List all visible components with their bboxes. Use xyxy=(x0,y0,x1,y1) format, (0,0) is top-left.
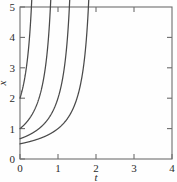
x-tick-label-3: 3 xyxy=(131,162,137,174)
y-tick-label-1: 1 xyxy=(10,123,16,135)
y-tick-label-0: 0 xyxy=(10,153,16,165)
y-tick-label-3: 3 xyxy=(10,62,16,74)
plot-canvas: 0 1 2 3 4 0 1 2 3 4 5 x t xyxy=(0,0,177,182)
y-tick-labels: 0 1 2 3 4 5 xyxy=(10,1,16,165)
y-tick-label-5: 5 xyxy=(10,1,16,13)
x-tick-label-4: 4 xyxy=(169,162,175,174)
y-tick-label-4: 4 xyxy=(10,31,16,43)
figure-container: 0 1 2 3 4 0 1 2 3 4 5 x t xyxy=(0,0,177,182)
y-tick-label-2: 2 xyxy=(10,92,16,104)
y-axis-title: x xyxy=(0,80,8,86)
x-tick-label-0: 0 xyxy=(17,162,23,174)
x-tick-label-1: 1 xyxy=(55,162,61,174)
